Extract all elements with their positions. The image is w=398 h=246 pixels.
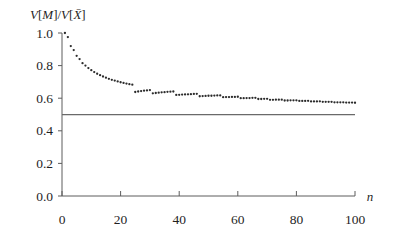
data-point [254,97,256,99]
x-tick-label: 60 [231,212,245,227]
data-point [313,100,315,102]
data-point [351,101,353,103]
data-point [108,78,110,80]
data-point [76,55,78,57]
data-point [234,96,236,98]
data-point [251,97,253,99]
x-axis-label: n [367,189,374,204]
data-point [240,97,242,99]
data-point [266,98,268,100]
data-point [257,98,259,100]
data-point [307,100,309,102]
data-point [272,99,274,101]
data-point [73,49,75,51]
data-point [93,71,95,73]
data-point [181,93,183,95]
data-point [342,101,344,103]
data-point [134,91,136,93]
data-point [137,90,139,92]
data-point [339,101,341,103]
data-point [122,82,124,84]
data-point [117,80,119,82]
data-point [210,95,212,97]
data-point [172,90,174,92]
data-point [193,93,195,95]
data-point [327,101,329,103]
data-point [269,99,271,101]
y-tick-label: 0.6 [36,91,53,106]
data-point [325,101,327,103]
data-point [228,96,230,98]
y-axis-label: V[M]/V[X̄] [30,7,86,22]
data-point [158,92,160,94]
y-tick-label: 0.8 [36,58,53,73]
data-point [128,83,130,85]
data-point [222,96,224,98]
data-point [260,98,262,100]
data-point [199,95,201,97]
data-point [160,91,162,93]
chart-figure: V[M]/V[X̄] n 0.00.20.40.60.81.0 02040608… [0,0,398,246]
data-point [225,96,227,98]
data-point [204,95,206,97]
data-point [140,90,142,92]
data-point [64,32,66,34]
data-point [119,81,121,83]
data-point [146,89,148,91]
x-tick-label: 0 [59,212,66,227]
data-point [275,99,277,101]
y-axis-label-text: V[M]/V[X̄] [30,7,86,22]
data-point [237,96,239,98]
y-tick-label: 1.0 [36,26,53,41]
data-point [289,99,291,101]
data-point [187,93,189,95]
data-point [96,73,98,75]
data-point [316,100,318,102]
data-point [319,100,321,102]
x-tick-label: 20 [114,212,128,227]
data-point [292,99,294,101]
data-point [163,91,165,93]
data-point [102,75,104,77]
chart-svg: V[M]/V[X̄] n 0.00.20.40.60.81.0 02040608… [0,0,398,246]
data-point [330,101,332,103]
data-point [175,94,177,96]
data-point [248,97,250,99]
data-point [243,97,245,99]
data-point [231,96,233,98]
data-point [207,95,209,97]
data-point [149,89,151,91]
data-point [216,94,218,96]
data-point [143,90,145,92]
data-point [201,95,203,97]
data-point [213,94,215,96]
data-point [169,91,171,93]
y-tick-label: 0.4 [36,123,53,138]
x-tick-label: 80 [290,212,304,227]
data-point [354,102,356,104]
data-point [105,77,107,79]
data-point [322,101,324,103]
data-point [301,100,303,102]
data-point [166,91,168,93]
x-tick-label: 40 [172,212,186,227]
data-point [87,67,89,69]
data-point [184,93,186,95]
data-point [131,84,133,86]
ylabel-rb2: ] [81,7,85,22]
data-point [152,92,154,94]
data-point [84,64,86,66]
data-point [281,99,283,101]
data-point [219,94,221,96]
chart-background [0,0,398,246]
data-point [190,93,192,95]
data-point [298,100,300,102]
data-point [155,92,157,94]
data-point [125,82,127,84]
data-point [295,99,297,101]
data-point [70,45,72,47]
data-point [114,79,116,81]
data-point [178,94,180,96]
data-point [99,74,101,76]
data-point [284,99,286,101]
